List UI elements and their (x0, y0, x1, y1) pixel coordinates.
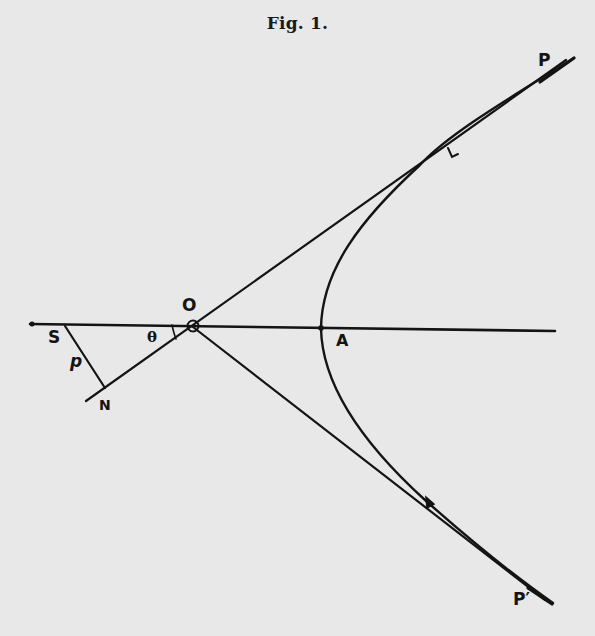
label-A: A (336, 333, 348, 349)
lower-tip-mark (528, 588, 552, 604)
label-N: N (99, 398, 111, 412)
label-P: P (538, 52, 550, 69)
vertex-A-dot (318, 325, 324, 331)
figure-page: Fig. 1. (0, 0, 595, 636)
label-p: p (70, 353, 82, 370)
label-S: S (48, 329, 60, 346)
horizontal-axis-line (30, 324, 555, 331)
lower-asymptote-line (193, 327, 545, 600)
hyperbola-diagram (0, 0, 595, 636)
label-theta: θ (147, 330, 157, 345)
axis-end-dot (30, 322, 35, 327)
upper-direction-arrow-icon (448, 148, 458, 157)
label-O: O (182, 297, 196, 314)
upper-asymptote-line (86, 60, 566, 401)
label-P-prime: P′ (513, 591, 530, 608)
